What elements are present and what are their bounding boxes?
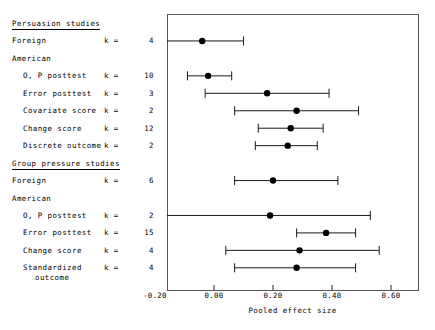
x-tick-label: -0.20 xyxy=(135,291,175,300)
effect-size-marker xyxy=(323,230,329,236)
effect-size-marker xyxy=(267,212,273,218)
forest-row-interval xyxy=(258,124,323,133)
forest-row-interval xyxy=(205,89,329,98)
effect-size-marker xyxy=(296,247,302,253)
forest-row-interval xyxy=(187,71,231,80)
forest-row-interval xyxy=(167,36,244,45)
effect-size-marker xyxy=(270,177,276,183)
forest-rows xyxy=(167,36,379,272)
x-tick-label: 0.20 xyxy=(253,291,293,300)
x-axis-title: Pooled effect size xyxy=(167,306,418,315)
x-tick-label: 0.00 xyxy=(194,291,234,300)
effect-size-marker xyxy=(199,38,205,44)
x-tick-label: 0.60 xyxy=(371,291,411,300)
effect-size-marker xyxy=(293,108,299,114)
forest-row-interval xyxy=(167,211,370,220)
effect-size-marker xyxy=(288,125,294,131)
effect-size-marker xyxy=(205,73,211,79)
forest-row-interval xyxy=(235,106,359,115)
forest-row-interval xyxy=(255,141,317,150)
forest-row-interval xyxy=(226,246,379,255)
forest-plot-figure: Persuasion studiesForeignk =4AmericanO, … xyxy=(0,0,435,330)
plot-frame xyxy=(168,15,419,291)
effect-size-marker xyxy=(264,90,270,96)
effect-size-marker xyxy=(285,142,291,148)
forest-row-interval xyxy=(235,263,356,272)
forest-row-interval xyxy=(297,228,356,237)
plot-area: Pooled effect size -0.200.000.200.400.60 xyxy=(0,0,435,330)
plot-border xyxy=(168,15,419,291)
x-axis-ticks xyxy=(214,285,391,290)
x-tick-label: 0.40 xyxy=(312,291,352,300)
forest-plot-svg xyxy=(0,0,435,330)
effect-size-marker xyxy=(293,265,299,271)
forest-row-interval xyxy=(235,176,338,185)
